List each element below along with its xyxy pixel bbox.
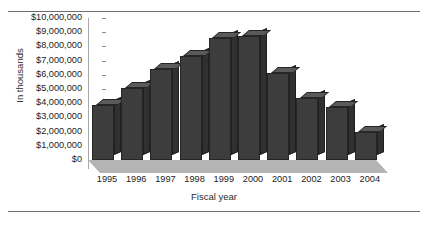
chart-figure: In thousands $10,000,000$9,000,000$8,000…: [0, 0, 428, 225]
bar-side-face: [231, 30, 238, 155]
y-axis-tick-labels: $10,000,000$9,000,000$8,000,000$7,000,00…: [18, 14, 82, 169]
bar-front-face: [238, 36, 260, 160]
frame-rule-bottom: [8, 211, 420, 212]
bar-front-face: [121, 88, 143, 160]
bar-front-face: [180, 56, 202, 160]
bar-front-face: [267, 73, 289, 160]
bar-front-face: [355, 132, 377, 160]
y-axis-tick-label: $10,000,000: [18, 13, 82, 22]
bar-side-face: [143, 79, 150, 155]
bar-front-face: [150, 69, 172, 160]
y-axis-tick-label: $2,000,000: [18, 127, 82, 136]
bar-front-face: [326, 107, 348, 160]
chart-floor: [88, 160, 388, 173]
bar-side-face: [172, 61, 179, 155]
y-axis-tick-label: $1,000,000: [18, 141, 82, 150]
y-axis-tick-label: $3,000,000: [18, 113, 82, 122]
bar-side-face: [348, 99, 355, 155]
bar-side-face: [260, 28, 267, 155]
y-axis-tick-label: $8,000,000: [18, 42, 82, 51]
bar-front-face: [296, 98, 318, 160]
y-axis-tick-label: $5,000,000: [18, 84, 82, 93]
bar-series: [88, 18, 388, 160]
bar-column[interactable]: [121, 18, 151, 160]
bar-side-face: [289, 65, 296, 155]
bar-side-face: [114, 97, 121, 155]
bar-column[interactable]: [267, 18, 297, 160]
bar-column[interactable]: [355, 18, 385, 160]
bar-column[interactable]: [326, 18, 356, 160]
bar-side-face: [318, 89, 325, 155]
bar-column[interactable]: [296, 18, 326, 160]
y-axis-tick-label: $4,000,000: [18, 99, 82, 108]
y-axis-tick-label: $0: [18, 155, 82, 164]
x-axis-title: Fiscal year: [0, 191, 428, 202]
bar-front-face: [92, 105, 114, 160]
y-axis-tick-label: $7,000,000: [18, 56, 82, 65]
bar-column[interactable]: [150, 18, 180, 160]
bar-column[interactable]: [238, 18, 268, 160]
bar-column[interactable]: [92, 18, 122, 160]
bar-column[interactable]: [180, 18, 210, 160]
chart-plot-region: In thousands $10,000,000$9,000,000$8,000…: [0, 14, 428, 208]
bar-side-face: [202, 48, 209, 155]
y-axis-tick-label: $9,000,000: [18, 28, 82, 37]
y-axis-tick-label: $6,000,000: [18, 70, 82, 79]
x-axis-tick-labels: 1995199619971998199920002001200220032004: [88, 174, 400, 188]
bar-column[interactable]: [209, 18, 239, 160]
x-axis-tick-label: 2004: [353, 174, 387, 184]
bar-front-face: [209, 38, 231, 160]
